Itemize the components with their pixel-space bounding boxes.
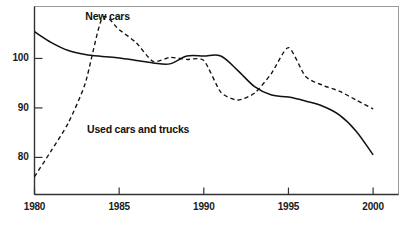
x-axis-ticks (35, 188, 374, 195)
x-axis-tick-label: 1980 (15, 201, 55, 212)
series-label-2: Used cars and trucks (87, 123, 189, 135)
plot-frame (35, 7, 399, 195)
y-axis-tick-label: 80 (5, 151, 29, 162)
y-axis-tick-label: 100 (5, 52, 29, 63)
chart-series-group (35, 16, 374, 176)
x-axis-tick-label: 1985 (99, 201, 139, 212)
x-axis-tick-label: 1990 (184, 201, 224, 212)
y-axis-tick-label: 90 (5, 102, 29, 113)
chart-container: 8090100 19801985199019952000 New carsUse… (0, 0, 408, 233)
x-axis-tick-label: 1995 (268, 201, 308, 212)
chart-plot-svg (0, 0, 408, 233)
series-line-1 (35, 32, 374, 155)
y-axis-ticks (35, 58, 43, 157)
series-label-1: New cars (85, 10, 130, 22)
x-axis-tick-label: 2000 (353, 201, 393, 212)
series-line-2 (35, 16, 374, 176)
